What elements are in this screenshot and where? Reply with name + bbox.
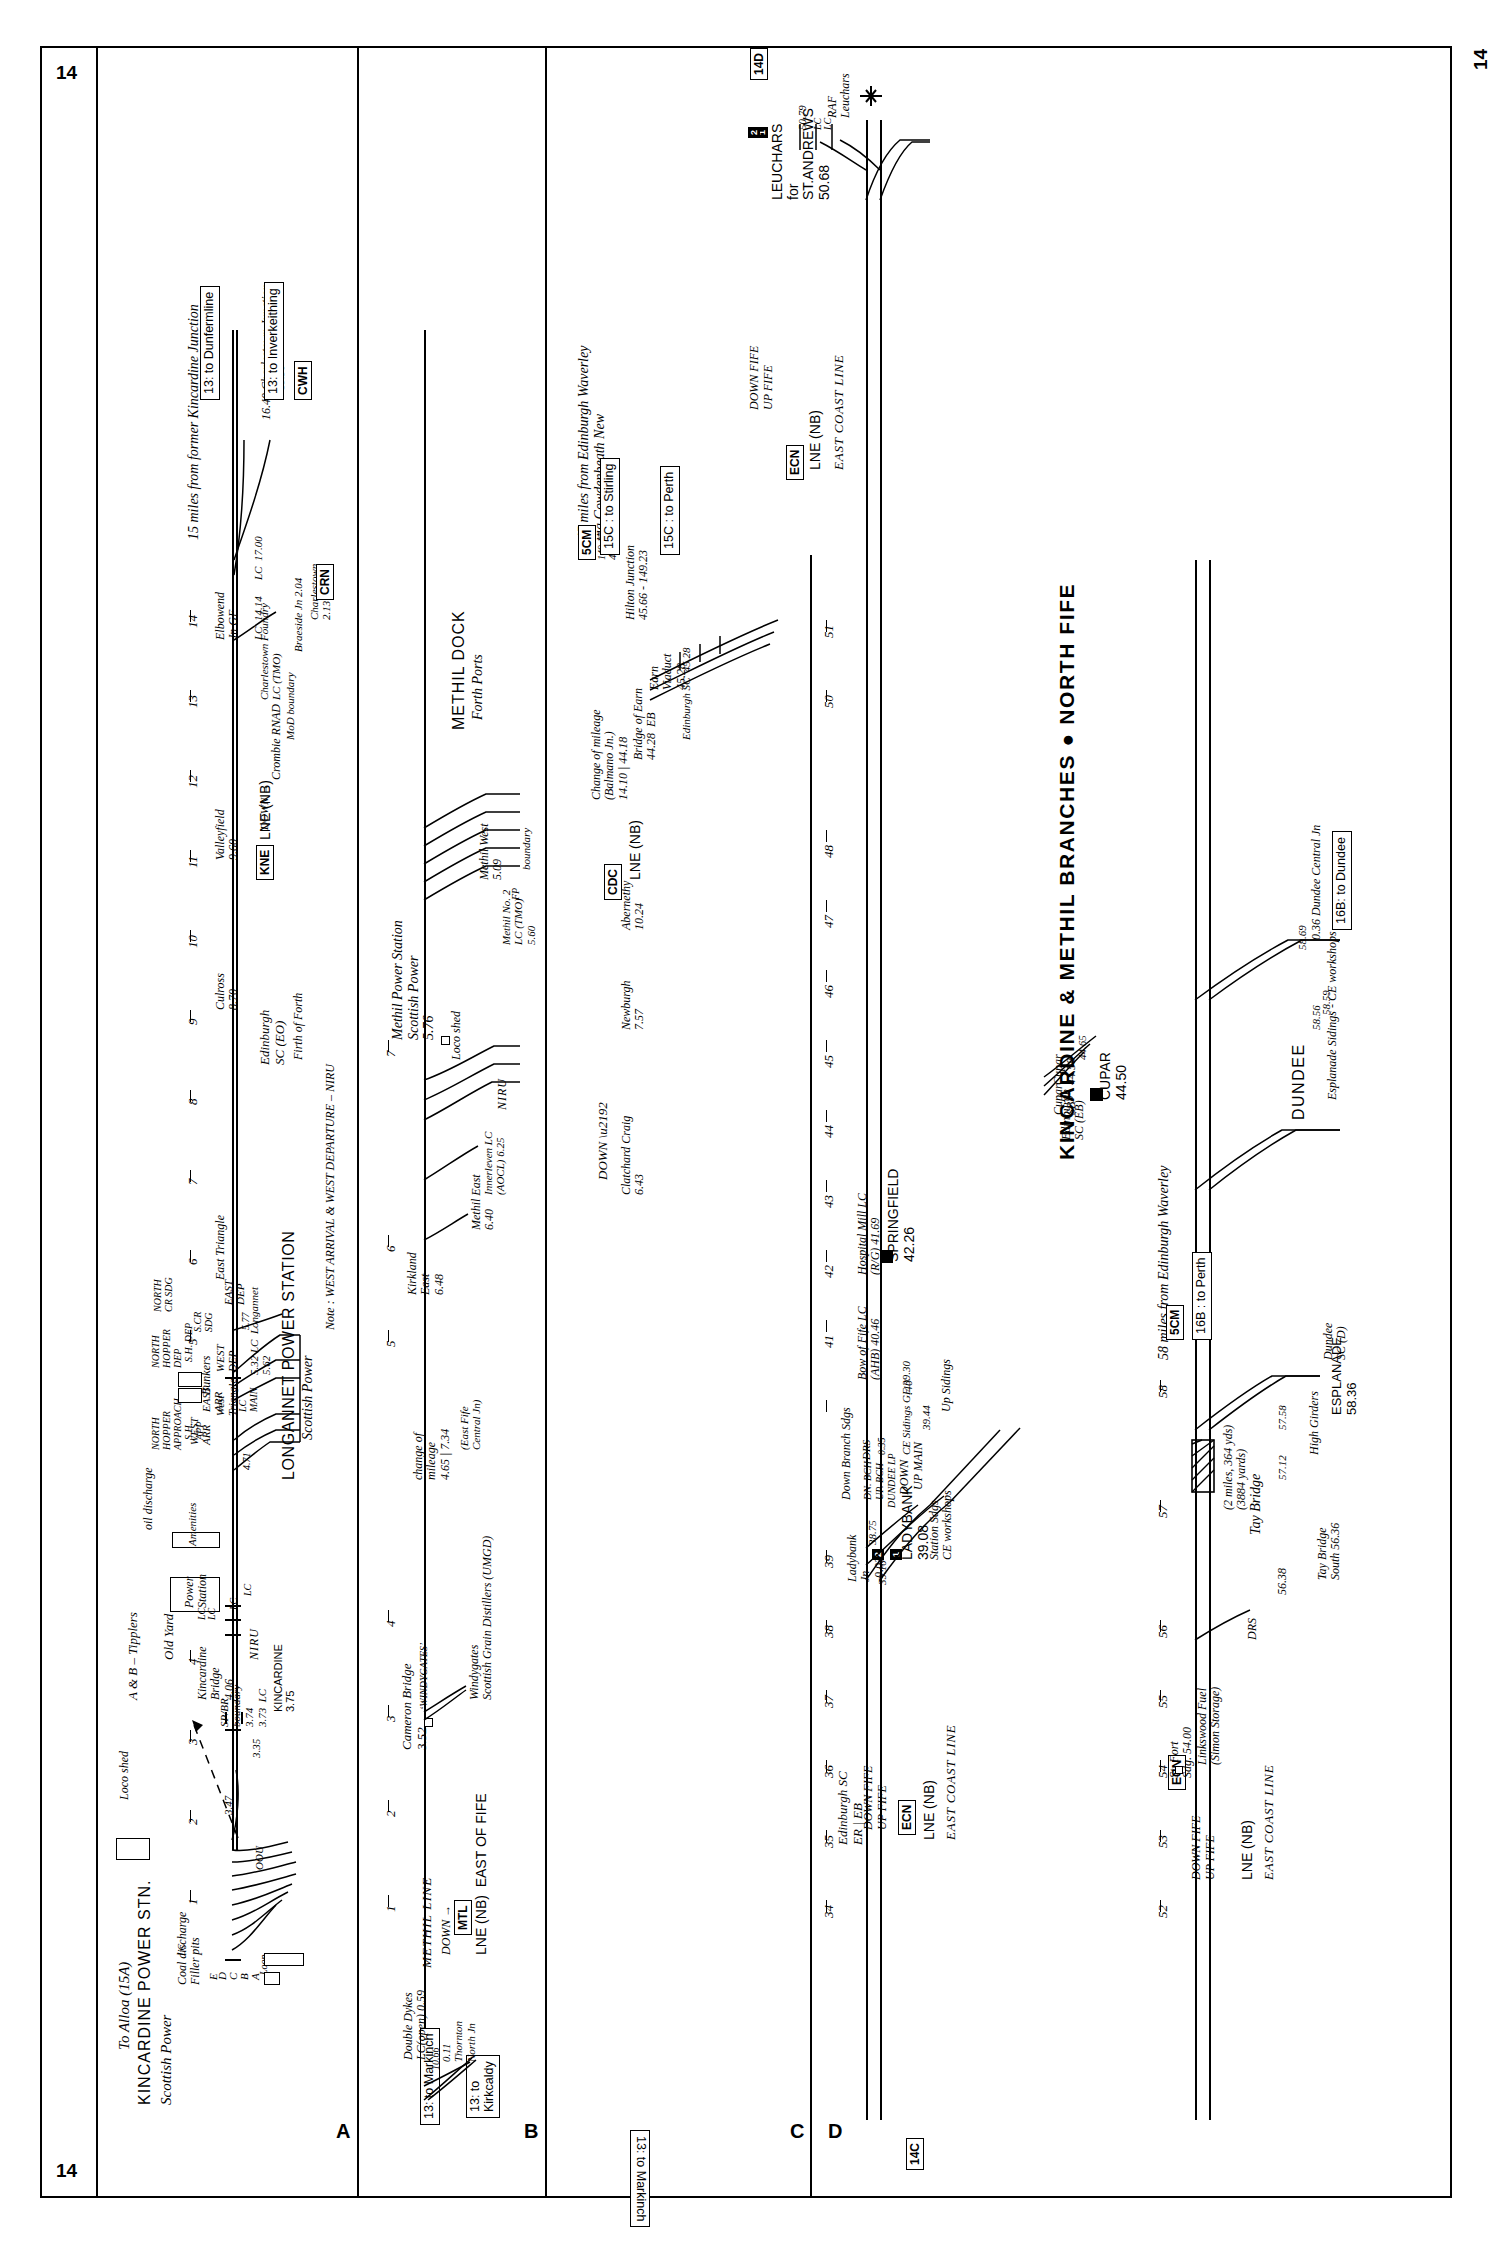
- rowC-dundee-lp: DUNDEE LP: [886, 1453, 897, 1508]
- rowB-thornton-north: 0.11 Thornton North Jn: [440, 2021, 477, 2062]
- rowC-lne-nb-3: LNE (NB): [808, 410, 824, 470]
- rowD-scale-56: 56: [1156, 1625, 1171, 1638]
- rowD-scale-55: 55: [1156, 1695, 1171, 1708]
- rowC-tick-46: [826, 970, 827, 982]
- rowA-longannet-operator: Scottish Power: [300, 1356, 316, 1440]
- rowB-boundary: boundary: [520, 828, 532, 870]
- rowD-lne-nb: LNE (NB): [1240, 1820, 1256, 1880]
- rowC-scale-50: 50: [822, 695, 837, 708]
- rowB-forth-ports: Forth Ports: [470, 654, 486, 720]
- rowB-scale-5: 5: [384, 1341, 399, 1348]
- rowA-west-triangle: West Triangle: [214, 1379, 239, 1416]
- rowC-bridge-of-earn: Bridge of Earn 44.28 EB: [632, 688, 659, 760]
- rowD-st-fort-box: [1175, 1766, 1183, 1774]
- rowB-windygates: Windygates Scottish Grain Distillers (UM…: [468, 1536, 495, 1700]
- rowA-mile-471: 4.71: [241, 1453, 252, 1471]
- rowA-loco-shed: Loco shed: [118, 1751, 131, 1800]
- rowC-to-markinch[interactable]: 13: to Markinch: [630, 2130, 650, 2227]
- rowB-kirkland-east: Kirkland East 6.48: [406, 1252, 446, 1295]
- rowA-bunkers: Bunkers: [200, 1356, 213, 1395]
- rowC-mile-40: .40: [902, 1380, 915, 1395]
- rowA-kincardine: KINCARDINE 3.75: [272, 1644, 297, 1712]
- rowA-west-dep: WEST DEP: [214, 1345, 239, 1373]
- rowA-filler-pit-rect-2: [264, 1972, 280, 1985]
- rowC-mile-3910: 39.10: [876, 1560, 888, 1585]
- rowC-dn-bch: DN. BCH: [862, 1461, 873, 1500]
- rowC-scale-45: 45: [822, 1055, 837, 1068]
- rowA-mod-boundary: MoD boundary: [284, 672, 296, 740]
- rowC-up-fife-label: UP FIFE: [876, 1785, 889, 1830]
- rowC-to-perth[interactable]: 15C : to Perth: [660, 466, 680, 555]
- rowC-change-of-mileage: Change of mileage (Balmano Jn.) 14.10 | …: [590, 709, 630, 800]
- rowC-mile-3875: 38.75: [866, 1520, 878, 1545]
- rowA-bunker-rect-1: [178, 1372, 202, 1387]
- rowA-note: Note : WEST ARRIVAL & WEST DEPARTURE – N…: [324, 1064, 337, 1330]
- rowC-drs: DRS: [860, 1440, 872, 1460]
- rowC-scale-47: 47: [822, 915, 837, 928]
- rowA-code-cwh: CWH: [294, 361, 312, 400]
- rowA-scale-10: 10: [186, 935, 201, 948]
- rowC-code-14d: 14D: [750, 48, 768, 80]
- rowC-scale-48: 48: [822, 845, 837, 858]
- rowB-to-kirkcaldy[interactable]: 13: to Kirkcaldy: [466, 2055, 500, 2118]
- rowA-east-triangle: East Triangle: [214, 1215, 227, 1280]
- rowC-tick-44: [826, 1110, 827, 1122]
- rowD-up-fife-label: UP FIFE: [1204, 1835, 1217, 1880]
- rowC-east-coast-line: EAST COAST LINE: [944, 1724, 959, 1840]
- rowB-change-of-mileage: change of mileage 4.65 | 7.34: [412, 1429, 452, 1480]
- rowD-mile-5859: 58.59: [1320, 990, 1332, 1015]
- rowD-code-5cm: 5CM: [1166, 1305, 1184, 1340]
- rowA-operator: Scottish Power: [158, 2015, 175, 2105]
- rowD-high-girders: High Girders: [1308, 1391, 1321, 1455]
- rowA-oil-discharge: oil discharge: [142, 1467, 155, 1530]
- rowA-lc-5: LC: [176, 1944, 187, 1956]
- rowA-scale-11: 11: [186, 856, 201, 868]
- rowA-to-alloa: To Alloa (15A): [116, 1962, 133, 2050]
- rowA-lc-3: LC: [228, 1598, 239, 1610]
- diagram-page: 14 14 14 KINCARDINE & METHIL BRANCHES ● …: [0, 0, 1497, 2243]
- rowC-scale-43: 43: [822, 1195, 837, 1208]
- rowC-down-arrow: DOWN \u2192: [596, 1102, 611, 1180]
- rowD-down-fife-label: DOWN FIFE: [1190, 1816, 1203, 1880]
- rowA-to-inverkeithing[interactable]: 13: to Inverkeithing: [264, 282, 284, 400]
- rowA-to-dunfermline[interactable]: 13: to Dunfermline: [200, 286, 220, 400]
- rowC-springfield: SPRINGFIELD 42.26: [886, 1169, 917, 1262]
- row-letter-a: A: [336, 2120, 350, 2143]
- rowA-station-title: KINCARDINE POWER STN.: [136, 1880, 154, 2105]
- rowC-to-stirling[interactable]: 15C : to Stirling: [600, 458, 620, 555]
- rowD-mile-5869: 58.69: [1296, 925, 1308, 950]
- rowA-firth-of-forth: Firth of Forth: [292, 993, 305, 1060]
- rowA-lc-longannet: 5.32 LC Longannet 5.62: [248, 1287, 273, 1375]
- rowC-tick-45: [826, 1040, 827, 1052]
- rowD-dundee-central: 0.36 Dundee Central Jn: [1310, 825, 1323, 940]
- rowB-methil-west: Methil West 5.09: [478, 823, 505, 880]
- rowC-up-sidings: Up Sidings: [940, 1359, 953, 1412]
- rowB-niru: NIRU: [496, 1078, 509, 1110]
- rowA-lc-373: 3.73 LC: [256, 1689, 268, 1727]
- rowD-dundee: DUNDEE: [1290, 1043, 1308, 1120]
- rowD-to-dundee[interactable]: 16B: to Dundee: [1332, 831, 1352, 930]
- rowC-cupar-jn: Cupar 44.58: [1052, 1054, 1079, 1085]
- rowB-lne-nb: LNE (NB) EAST OF FIFE: [474, 1793, 490, 1955]
- rowD-tay-bridge: Tay Bridge: [1248, 1474, 1264, 1535]
- rowB-windygates-box: [424, 1718, 433, 1727]
- rowC-scale-41: 41: [822, 1335, 837, 1348]
- rowD-tay-bridge-len: (2 miles, 364 yds) (3884 yards): [1222, 1425, 1249, 1510]
- rowC-bow-of-fife: Bow of Fife LC (AHB) 40.46: [856, 1306, 883, 1380]
- rowA-tipplers-note: A & B – Tipplers: [126, 1612, 141, 1700]
- rowA-amenities-box: Amenities: [186, 1503, 198, 1546]
- rowA-scale-2: 2: [186, 1819, 201, 1826]
- rowD-to-perth[interactable]: 16B : to Perth: [1192, 1252, 1212, 1340]
- rowA-crombie-rnad: Crombie RNAD: [270, 704, 283, 780]
- rowC-cupar-marker: [1090, 1088, 1103, 1101]
- rowA-main-line-2: [236, 330, 238, 1850]
- rowA-charlestown-foundry: Charlestown Foundry LC (TMO): [258, 603, 283, 700]
- rowA-longannet-ps: LONGANNET POWER STATION: [280, 1231, 298, 1480]
- rowA-culross: Culross 8.70: [214, 973, 241, 1010]
- rowC-station-sdgs: Station Sdgs CE workshops: [928, 1490, 955, 1560]
- rowC-newburgh: Newburgh 7.57: [620, 980, 647, 1030]
- rowB-code-mtl: MTL: [454, 1900, 472, 1935]
- rowA-niru: NIRU: [248, 1628, 261, 1660]
- rowA-north-hopper-approach: NORTH HOPPER APPROACH: [150, 1398, 184, 1450]
- rowC-clatchard-craig: Clatchard Craig 6.43: [620, 1116, 647, 1195]
